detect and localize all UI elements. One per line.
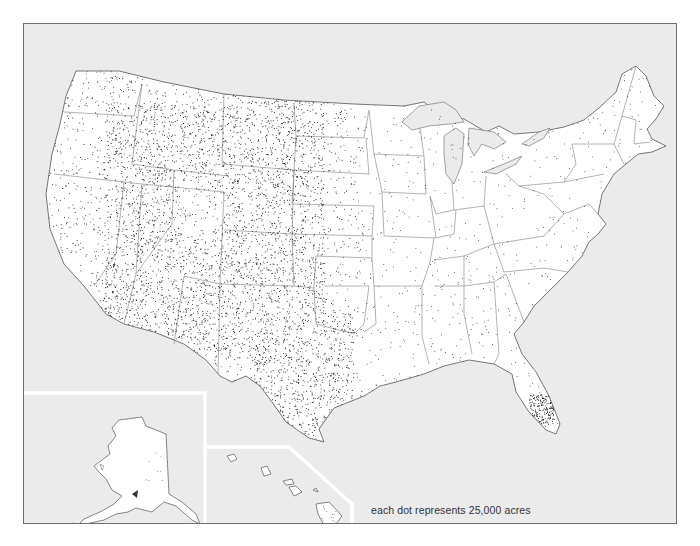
alaska-inset (51, 417, 200, 524)
map-legend: each dot represents 25,000 acres (371, 504, 531, 516)
contiguous-us (44, 64, 669, 445)
dot-density-map (24, 24, 677, 524)
map-frame (23, 23, 677, 524)
hawaii-inset (227, 454, 342, 524)
